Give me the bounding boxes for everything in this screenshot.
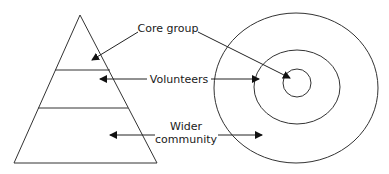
pyramid-outline [14, 15, 157, 163]
middle-ring [254, 50, 340, 124]
label-community: community [155, 133, 218, 146]
label-core-group: Core group [138, 22, 199, 35]
outer-ring [214, 13, 378, 163]
community-diagram: Core group Volunteers Wider community [0, 0, 389, 174]
label-volunteers: Volunteers [150, 73, 209, 86]
label-wider: Wider [170, 120, 202, 133]
arrow-core-to-pyramid [92, 32, 138, 60]
inner-ring [283, 69, 311, 97]
pyramid [14, 15, 157, 163]
concentric-circles [214, 13, 378, 163]
